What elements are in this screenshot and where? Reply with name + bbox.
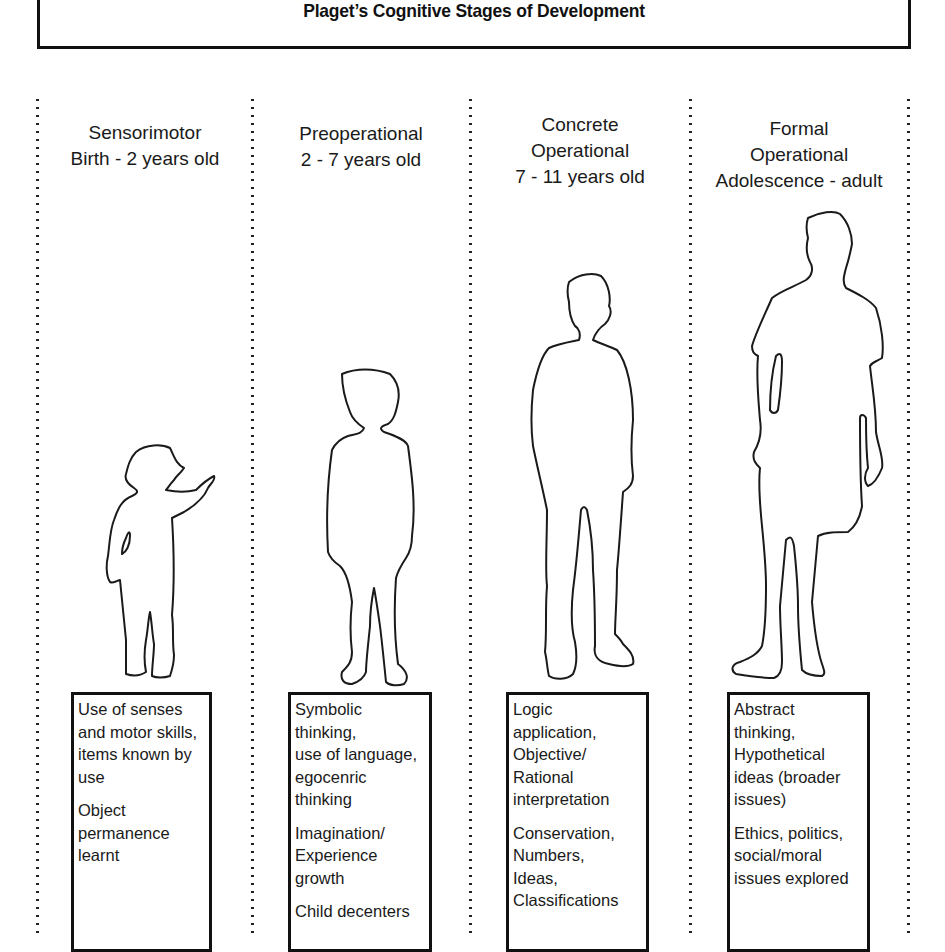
description-paragraph: Child decenters [295, 900, 425, 923]
column-divider [36, 96, 39, 933]
column-divider [689, 96, 692, 933]
description-paragraph: Ethics, politics, social/moral issues ex… [734, 822, 863, 890]
young-child-icon [312, 366, 422, 696]
stage-name: Concrete [473, 112, 687, 138]
description-paragraph: Imagination/ Experience growth [295, 822, 425, 890]
column-divider [907, 96, 910, 933]
description-paragraph: Logic application, Objective/ Rational i… [513, 698, 642, 811]
stage-description-concrete-operational: Logic application, Objective/ Rational i… [506, 692, 649, 952]
column-divider [251, 96, 254, 933]
stage-description-formal-operational: Abstract thinking, Hypothetical ideas (b… [727, 692, 870, 952]
stage-name: Operational [473, 138, 687, 164]
stage-description-preoperational: Symbolic thinking, use of language, egoc… [288, 692, 432, 952]
older-child-icon [523, 270, 643, 690]
stage-heading-sensorimotor: Sensorimotor Birth - 2 years old [40, 120, 250, 172]
stage-heading-concrete-operational: Concrete Operational 7 - 11 years old [473, 112, 687, 190]
stage-age: 2 - 7 years old [255, 147, 467, 173]
description-paragraph: Conservation, Numbers, Ideas, Classifica… [513, 822, 642, 912]
stage-name: Sensorimotor [40, 120, 250, 146]
diagram-title: Plaget’s Cognitive Stages of Development [75, 0, 874, 22]
column-divider [469, 96, 472, 933]
stage-age: 7 - 11 years old [473, 164, 687, 190]
stage-name: Operational [693, 142, 905, 168]
adult-icon [726, 206, 896, 686]
description-paragraph: Object permanence learnt [78, 799, 205, 867]
toddler-pointing-icon [96, 440, 226, 680]
stage-description-sensorimotor: Use of senses and motor skills, items kn… [71, 692, 212, 952]
description-paragraph: Use of senses and motor skills, items kn… [78, 698, 205, 788]
stage-heading-preoperational: Preoperational 2 - 7 years old [255, 121, 467, 173]
stage-heading-formal-operational: Formal Operational Adolescence - adult [693, 116, 905, 194]
stage-name: Formal [693, 116, 905, 142]
stage-name: Preoperational [255, 121, 467, 147]
title-box: Plaget’s Cognitive Stages of Development [37, 0, 911, 49]
stage-age: Adolescence - adult [693, 168, 905, 194]
description-paragraph: Abstract thinking, Hypothetical ideas (b… [734, 698, 863, 811]
stage-age: Birth - 2 years old [40, 146, 250, 172]
description-paragraph: Symbolic thinking, use of language, egoc… [295, 698, 425, 811]
